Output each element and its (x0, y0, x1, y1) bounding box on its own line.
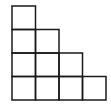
staircase-diagram (0, 0, 111, 111)
grid-square (36, 30, 60, 54)
grid-square (12, 6, 36, 30)
grid-square (12, 77, 36, 101)
grid-square (36, 53, 60, 77)
grid-square (59, 53, 83, 77)
grid-square (36, 77, 60, 101)
grid-square (12, 30, 36, 54)
grid-square (83, 77, 107, 101)
grid-square (12, 53, 36, 77)
grid-square (59, 77, 83, 101)
